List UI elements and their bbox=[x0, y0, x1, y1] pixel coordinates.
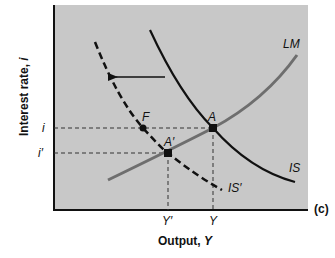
point-a-marker bbox=[209, 124, 217, 132]
point-f-label: F bbox=[142, 110, 150, 124]
is-prime-label: IS′ bbox=[228, 181, 242, 195]
y-tick-i-prime: i′ bbox=[38, 146, 44, 160]
is-label: IS bbox=[289, 161, 300, 175]
point-a-prime-label: A′ bbox=[163, 135, 175, 149]
y-tick-i: i bbox=[42, 121, 45, 135]
x-axis-title: Output, Y bbox=[158, 234, 213, 248]
y-axis-title: Interest rate, i bbox=[17, 57, 31, 136]
point-a-prime-marker bbox=[164, 149, 172, 157]
x-tick-y: Y bbox=[209, 214, 218, 228]
lm-label: LM bbox=[283, 37, 300, 51]
point-a-label: A bbox=[207, 110, 216, 124]
panel-label: (c) bbox=[314, 202, 329, 216]
point-f-marker bbox=[140, 125, 147, 132]
x-tick-y-prime: Y′ bbox=[162, 214, 173, 228]
plot-area bbox=[54, 5, 308, 210]
is-lm-diagram: A A′ F LM IS IS′ i i′ Y′ Y Output, Y Int… bbox=[0, 0, 335, 258]
